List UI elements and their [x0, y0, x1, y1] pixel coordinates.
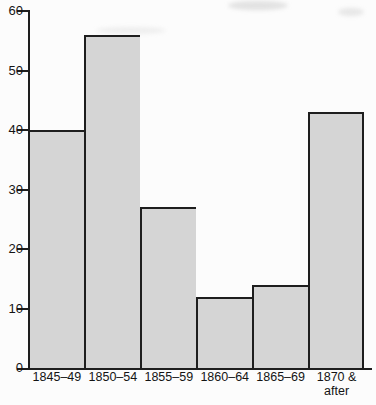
x-category-label: 1860–64	[194, 371, 256, 385]
y-tick-label: 20	[0, 241, 23, 257]
y-tick-label: 40	[0, 122, 23, 138]
histogram-bar	[196, 297, 252, 368]
histogram-bar	[308, 112, 364, 368]
histogram-bar	[252, 285, 308, 368]
x-category-label: 1850–54	[82, 371, 144, 385]
histogram-bar	[28, 130, 84, 368]
scan-smudge	[96, 27, 166, 34]
scan-smudge	[338, 8, 364, 16]
histogram-bar	[140, 207, 196, 368]
histogram-figure: 01020304050601845–491850–541855–591860–6…	[0, 0, 376, 405]
y-tick-label: 10	[0, 301, 23, 317]
x-category-label: 1855–59	[138, 371, 200, 385]
scan-smudge	[228, 1, 288, 10]
y-tick-label: 30	[0, 182, 23, 198]
y-tick-label: 50	[0, 63, 23, 79]
y-tick-label: 60	[0, 3, 23, 19]
y-tick-label: 0	[0, 360, 23, 376]
histogram-bar	[84, 35, 140, 368]
x-category-label: 1870 & after	[306, 371, 368, 398]
x-category-label: 1865–69	[250, 371, 312, 385]
x-category-label: 1845–49	[26, 371, 88, 385]
